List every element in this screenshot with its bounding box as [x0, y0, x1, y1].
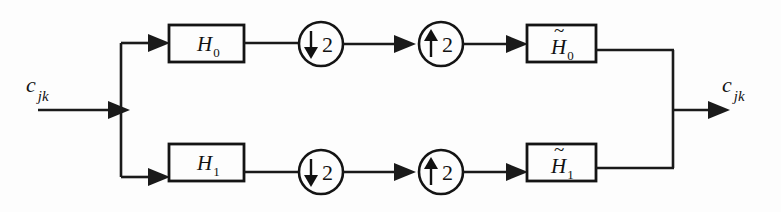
- analysis-filter-h0[interactable]: H0: [169, 25, 244, 62]
- upsampler-lower[interactable]: 2: [419, 150, 463, 194]
- output-signal-label: cjk: [722, 72, 745, 104]
- synthesis-filter-h1[interactable]: ~ H1: [527, 139, 596, 182]
- input-arrowhead: [108, 101, 130, 119]
- downsampler-lower[interactable]: 2: [299, 150, 343, 194]
- upsampler-upper[interactable]: 2: [419, 22, 463, 66]
- upsampler-lower-circle: [419, 150, 463, 194]
- merge-junction-group: [596, 50, 674, 168]
- upsampler-upper-circle: [419, 22, 463, 66]
- diagram-canvas: H0 2 2 ~: [0, 0, 781, 212]
- downsampler-upper-circle: [299, 22, 343, 66]
- input-signal-label: cjk: [26, 72, 49, 104]
- upsampler-lower-arrowhead: [394, 163, 416, 181]
- analysis-filter-h1[interactable]: H1: [169, 144, 244, 181]
- downsampler-to-upsampler-lower-group: [343, 163, 416, 181]
- output-arrowhead: [708, 101, 730, 119]
- upsampler-to-synthesis-lower-group: [463, 163, 528, 181]
- input-wire-group: [38, 101, 130, 119]
- upsampler-upper-arrowhead: [394, 35, 416, 53]
- downsampler-to-upsampler-upper-group: [343, 35, 416, 53]
- downsampler-upper-factor: 2: [322, 32, 333, 57]
- upper-branch-arrowhead: [148, 34, 170, 52]
- synthesis-h0-arrowhead: [506, 35, 528, 53]
- filter-bank-diagram: H0 2 2 ~: [0, 0, 781, 212]
- upsampler-upper-factor: 2: [442, 32, 453, 57]
- synthesis-filter-h0[interactable]: ~ H0: [527, 20, 596, 63]
- synthesis-h1-arrowhead: [506, 163, 528, 181]
- output-wire-group: [673, 101, 730, 119]
- upsampler-lower-factor: 2: [442, 160, 453, 185]
- lower-branch-arrowhead: [148, 168, 170, 186]
- downsampler-lower-circle: [299, 150, 343, 194]
- downsampler-upper[interactable]: 2: [299, 22, 343, 66]
- upsampler-to-synthesis-upper-group: [463, 35, 528, 53]
- downsampler-lower-factor: 2: [322, 160, 333, 185]
